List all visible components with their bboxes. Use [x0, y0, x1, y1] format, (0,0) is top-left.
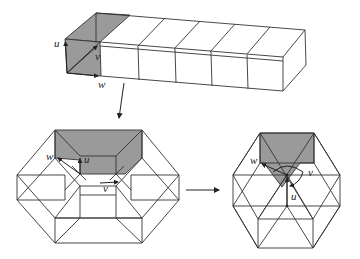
- hex-left-label-w: w: [46, 150, 54, 162]
- hex-right-label-u: u: [291, 190, 297, 202]
- hex-left-label-u: u: [84, 153, 90, 165]
- hex-left-label-v: v: [103, 182, 108, 194]
- hex-right-label-v: v: [308, 166, 313, 178]
- prism-label-v: v: [95, 50, 100, 62]
- diagram-canvas: u v w: [0, 0, 360, 259]
- hexagon-left-shaded: [55, 130, 142, 174]
- hex-right-label-w: w: [250, 154, 258, 166]
- lower-point: [286, 205, 289, 208]
- prism-top-face-shaded: [65, 13, 130, 42]
- hexagon-right-figure: w v u: [233, 133, 340, 248]
- hexagon-left-figure: w u v: [17, 130, 179, 243]
- center-point: [286, 174, 289, 177]
- hex-left-w-arrow: [58, 158, 80, 174]
- arrow-down: [119, 83, 124, 118]
- prism-figure: u v w: [54, 13, 306, 91]
- prism-label-w: w: [98, 78, 106, 90]
- prism-label-u: u: [54, 37, 60, 49]
